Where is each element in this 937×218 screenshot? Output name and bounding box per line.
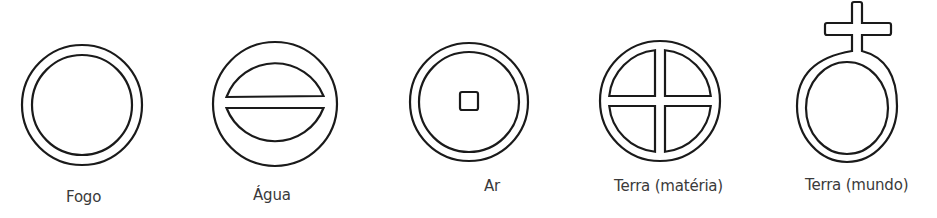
fire-symbol-icon	[22, 45, 142, 165]
earth-matter-label: Terra (matéria)	[614, 177, 723, 195]
element-symbols-canvas	[0, 0, 937, 218]
water-symbol-icon	[213, 42, 337, 166]
earth-world-symbol-icon	[797, 2, 897, 162]
earth-world-label: Terra (mundo)	[805, 176, 908, 194]
air-symbol-icon	[410, 43, 528, 161]
earth-matter-symbol-icon	[600, 41, 720, 161]
fire-label: Fogo	[66, 188, 101, 206]
water-label: Água	[253, 186, 291, 204]
air-label: Ar	[484, 177, 500, 195]
